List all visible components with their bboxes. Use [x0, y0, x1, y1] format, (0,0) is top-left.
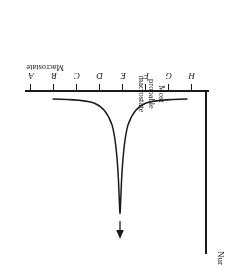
x-tick-label-C: C	[74, 71, 80, 80]
figure-canvas: A B C D E F G H Macrostate Number of mic…	[0, 0, 244, 265]
microstates-curve	[53, 99, 187, 214]
callout-line-3: macrostate	[136, 67, 146, 121]
most-probable-macrostate-callout: Most probable macrostate	[136, 67, 166, 121]
x-axis-ticks	[31, 84, 192, 91]
x-axis-title: Macrostate	[26, 64, 64, 73]
callout-line-2: probable	[146, 67, 156, 121]
y-axis-title: Number of microstatesW	[216, 251, 225, 265]
down-arrow-icon	[116, 221, 124, 239]
x-tick-label-G: G	[166, 71, 173, 80]
plot-area	[0, 0, 244, 265]
callout-line-1: Most	[156, 67, 166, 121]
x-tick-label-E: E	[121, 71, 127, 80]
x-tick-label-H: H	[189, 71, 196, 80]
y-axis-title-text: Number of microstates	[216, 251, 226, 265]
x-tick-label-D: D	[97, 71, 104, 80]
